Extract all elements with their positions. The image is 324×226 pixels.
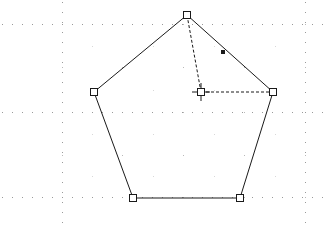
grid-major-dot — [62, 142, 63, 143]
grid-major-dot — [302, 112, 303, 113]
grid-dot — [275, 46, 276, 47]
grid-major-dot — [262, 24, 263, 25]
grid-major-dot — [182, 24, 183, 25]
grid-dot — [305, 24, 306, 25]
grid-major-dot — [62, 122, 63, 123]
grid-major-dot — [62, 182, 63, 183]
grid-major-dot — [262, 112, 263, 113]
grid-major-dot — [272, 24, 273, 25]
grid-major-dot — [82, 24, 83, 25]
grid-major-dot — [132, 24, 133, 25]
grid-major-dot — [62, 102, 63, 103]
grid-major-dot — [322, 112, 323, 113]
grid-dot — [275, 134, 276, 135]
grid-major-dot — [192, 24, 193, 25]
drawing-canvas-root[interactable] — [0, 0, 324, 226]
center-point-handle[interactable] — [198, 89, 205, 96]
grid-major-dot — [305, 2, 306, 3]
grid-major-dot — [282, 112, 283, 113]
grid-major-dot — [62, 42, 63, 43]
vertex-handle-v-left[interactable] — [91, 89, 98, 96]
grid-major-dot — [62, 152, 63, 153]
vertex-handle-v-right[interactable] — [270, 89, 277, 96]
grid-dot — [122, 155, 123, 156]
grid-major-dot — [202, 112, 203, 113]
grid-major-dot — [305, 222, 306, 223]
grid-major-dot — [292, 24, 293, 25]
grid-major-dot — [42, 112, 43, 113]
grid-major-dot — [32, 24, 33, 25]
grid-major-dot — [52, 112, 53, 113]
grid-dot — [305, 67, 306, 68]
grid-major-dot — [305, 92, 306, 93]
grid-dot — [244, 197, 245, 198]
grid-major-dot — [32, 197, 33, 198]
grid-dot — [244, 155, 245, 156]
grid-major-dot — [305, 82, 306, 83]
grid-dot — [153, 90, 154, 91]
grid-dot — [183, 155, 184, 156]
grid-major-dot — [82, 112, 83, 113]
grid-major-dot — [142, 24, 143, 25]
vertex-handle-v-bottom-right[interactable] — [237, 195, 244, 202]
grid-major-dot — [305, 12, 306, 13]
grid-major-dot — [72, 24, 73, 25]
grid-major-dot — [312, 112, 313, 113]
grid-dot — [244, 112, 245, 113]
grid-major-dot — [305, 182, 306, 183]
grid-major-dot — [12, 24, 13, 25]
grid-major-dot — [252, 112, 253, 113]
grid-major-dot — [62, 32, 63, 33]
grid-major-dot — [62, 172, 63, 173]
grid-major-dot — [222, 112, 223, 113]
grid-major-dot — [305, 42, 306, 43]
grid-major-dot — [272, 112, 273, 113]
grid-major-dot — [322, 197, 323, 198]
grid-major-dot — [272, 197, 273, 198]
grid-dot — [214, 134, 215, 135]
grid-major-dot — [152, 112, 153, 113]
drawing-surface[interactable] — [0, 0, 324, 226]
grid-dot — [92, 134, 93, 135]
grid-major-dot — [182, 112, 183, 113]
grid-major-dot — [22, 197, 23, 198]
grid-major-dot — [305, 102, 306, 103]
grid-dot — [153, 134, 154, 135]
grid-major-dot — [52, 197, 53, 198]
grid-major-dot — [305, 142, 306, 143]
grid-major-dot — [172, 112, 173, 113]
grid-major-dot — [62, 162, 63, 163]
grid-major-dot — [62, 202, 63, 203]
grid-major-dot — [62, 24, 63, 25]
grid-major-dot — [112, 24, 113, 25]
grid-major-dot — [192, 112, 193, 113]
grid-major-dot — [62, 82, 63, 83]
grid-major-dot — [212, 24, 213, 25]
grid-dot — [62, 155, 63, 156]
grid-major-dot — [172, 24, 173, 25]
grid-major-dot — [305, 132, 306, 133]
grid-major-dot — [62, 92, 63, 93]
grid-major-dot — [232, 112, 233, 113]
grid-major-dot — [2, 112, 3, 113]
grid-major-dot — [62, 197, 63, 198]
grid-dot — [183, 112, 184, 113]
grid-major-dot — [52, 24, 53, 25]
grid-major-dot — [305, 192, 306, 193]
grid-major-dot — [62, 222, 63, 223]
vertex-handle-v-top[interactable] — [184, 12, 191, 19]
grid-major-dot — [312, 197, 313, 198]
vertex-handle-v-bottom-left[interactable] — [130, 195, 137, 202]
grid-major-dot — [305, 162, 306, 163]
grid-dot — [92, 176, 93, 177]
grid-major-dot — [62, 52, 63, 53]
grid-major-dot — [92, 197, 93, 198]
edge-midpoint-handle[interactable] — [221, 50, 225, 54]
grid-dot — [183, 24, 184, 25]
grid-dot — [214, 46, 215, 47]
grid-major-dot — [292, 197, 293, 198]
grid-major-dot — [102, 24, 103, 25]
grid-dot — [92, 46, 93, 47]
grid-major-dot — [292, 112, 293, 113]
grid-major-dot — [102, 197, 103, 198]
